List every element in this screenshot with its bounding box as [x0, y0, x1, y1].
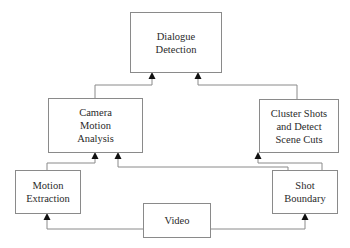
arrowhead-icon: [149, 72, 156, 79]
arrowhead-icon: [115, 152, 122, 159]
node-label: Analysis: [77, 132, 114, 145]
node-label: Shot: [295, 179, 314, 192]
edge-motion-extraction-to-camera: [47, 158, 95, 170]
edge-video-to-motion-extraction: [47, 219, 143, 229]
node-label: Detection: [156, 43, 197, 56]
node-label: Motion: [80, 119, 111, 132]
arrowhead-icon: [302, 213, 309, 220]
node-label: Boundary: [284, 192, 325, 205]
node-dialogue-detection: Dialogue Detection: [130, 12, 222, 73]
arrowhead-icon: [44, 213, 51, 220]
arrowhead-icon: [255, 152, 262, 159]
node-label: Video: [164, 214, 189, 227]
node-label: Extraction: [26, 192, 70, 205]
edge-shot-boundary-to-cluster: [258, 158, 322, 170]
node-label: Scene Cuts: [276, 133, 323, 146]
node-motion-extraction: Motion Extraction: [15, 170, 81, 214]
node-label: and Detect: [276, 120, 321, 133]
node-shot-boundary: Shot Boundary: [272, 170, 338, 214]
edge-cluster-to-dialogue: [198, 78, 297, 99]
node-video: Video: [143, 203, 211, 238]
node-label: Motion: [33, 179, 64, 192]
node-label: Dialogue: [157, 30, 196, 43]
node-label: Camera: [79, 106, 112, 119]
arrowhead-icon: [195, 72, 202, 79]
edge-shot-boundary-to-camera: [118, 158, 288, 170]
node-camera-motion-analysis: Camera Motion Analysis: [48, 98, 143, 153]
edge-camera-to-dialogue: [95, 78, 152, 98]
edge-video-to-shot-boundary: [210, 219, 305, 229]
arrowhead-icon: [92, 152, 99, 159]
node-label: Cluster Shots: [271, 107, 327, 120]
node-cluster-shots-detect-scene-cuts: Cluster Shots and Detect Scene Cuts: [259, 99, 339, 153]
